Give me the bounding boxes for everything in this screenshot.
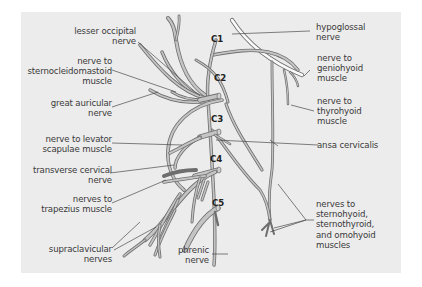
label-great-auricular-nerve: great auricular nerve [51, 98, 112, 118]
label-line: phrenic [178, 245, 209, 255]
label-line: sternohyoid, [316, 209, 376, 219]
label-line: great auricular [51, 98, 112, 108]
label-line: muscle [28, 76, 112, 86]
label-lesser-occipital-nerve: lesser occipital nerve [74, 26, 136, 46]
label-line: scapulae muscle [43, 144, 113, 154]
upper-cutaneous-branches [140, 16, 208, 102]
label-line: hypoglossal [316, 22, 365, 32]
label-line: and omohyoid [316, 230, 376, 240]
label-line: nerves [49, 254, 112, 264]
label-line: supraclavicular [49, 244, 112, 254]
label-line: nerves to [316, 199, 376, 209]
root-label-c4: C4 [210, 154, 222, 164]
label-line: nerve to [28, 56, 112, 66]
label-line: lesser occipital [74, 26, 136, 36]
root-label-c3: C3 [211, 114, 223, 124]
label-line: nerve [316, 32, 365, 42]
label-nerves-to-infrahyoid-muscles: nerves to sternohyoid, sternothyroid, an… [316, 199, 376, 250]
label-line: thyrohyoid [317, 106, 362, 116]
label-transverse-cervical-nerve: transverse cervical nerve [33, 165, 112, 185]
label-nerve-to-geniohyoid: nerve to geniohyoid muscle [317, 53, 363, 84]
c4-branches [124, 167, 221, 257]
label-line: trapezius muscle [41, 204, 112, 214]
label-line: nerve [51, 108, 112, 118]
label-line: muscle [317, 116, 362, 126]
label-nerve-to-levator-scapulae: nerve to levator scapulae muscle [43, 134, 113, 154]
root-label-c5: C5 [212, 198, 224, 208]
label-line: nerve [74, 36, 136, 46]
label-line: nerves to [41, 194, 112, 204]
ansa-cervicalis [212, 130, 274, 236]
label-hypoglossal-nerve: hypoglossal nerve [316, 22, 365, 42]
root-label-c2: C2 [214, 73, 226, 83]
hypoglossal-nerve [232, 20, 302, 75]
label-line: transverse cervical [33, 165, 112, 175]
label-line: sternocleidomastoid [28, 66, 112, 76]
label-phrenic-nerve: phrenic nerve [178, 245, 209, 265]
label-nerve-to-thyrohyoid: nerve to thyrohyoid muscle [317, 96, 362, 127]
label-line: nerve to [317, 96, 362, 106]
label-line: muscles [316, 240, 376, 250]
label-line: nerve [33, 175, 112, 185]
label-line: geniohyoid [317, 63, 363, 73]
label-line: ansa cervicalis [317, 140, 378, 150]
label-line: nerve [178, 255, 209, 265]
label-line: nerve to levator [43, 134, 113, 144]
label-nerve-to-sternocleidomastoid: nerve to sternocleidomastoid muscle [28, 56, 112, 87]
label-ansa-cervicalis: ansa cervicalis [317, 140, 378, 150]
label-line: nerve to [317, 53, 363, 63]
label-supraclavicular-nerves: supraclavicular nerves [49, 244, 112, 264]
root-label-c1: C1 [211, 34, 223, 44]
label-line: muscle [317, 73, 363, 83]
label-line: sternothyroid, [316, 219, 376, 229]
label-nerves-to-trapezius: nerves to trapezius muscle [41, 194, 112, 214]
